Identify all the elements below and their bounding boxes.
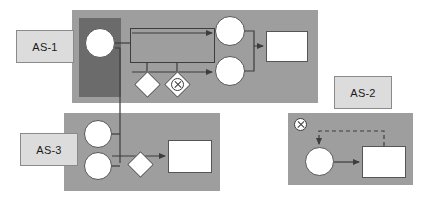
as1-task-lower-event[interactable]: [215, 56, 245, 86]
edge-as1-start-down-to-as3: [115, 48, 120, 163]
as3-event-upper[interactable]: [84, 120, 112, 148]
as3-label[interactable]: AS-3: [20, 133, 78, 166]
as1-subprocess-frame[interactable]: [130, 28, 215, 63]
as2-terminate-x-icon[interactable]: [294, 118, 307, 131]
as1-end-task[interactable]: [266, 31, 308, 62]
edge-lower-event-merge: [245, 46, 254, 71]
as2-event[interactable]: [305, 147, 334, 176]
as1-task-upper-event[interactable]: [215, 16, 245, 46]
as3-end-task[interactable]: [168, 140, 212, 173]
as2-label-text: AS-2: [350, 87, 375, 99]
as1-label-text: AS-1: [32, 41, 57, 53]
as3-event-lower[interactable]: [84, 152, 112, 180]
edge-events-merge-to-end-task: [245, 31, 263, 46]
diagram-canvas: AS-1 AS-3 AS-2: [0, 0, 429, 198]
as2-task[interactable]: [362, 146, 406, 178]
as1-label[interactable]: AS-1: [16, 30, 74, 63]
as1-start-event[interactable]: [85, 28, 115, 58]
as1-gateway-exclusive-x-icon: [171, 78, 184, 91]
edge-as2-task-feedback-loop: [319, 131, 384, 146]
as2-label[interactable]: AS-2: [334, 76, 392, 109]
as3-label-text: AS-3: [36, 144, 61, 156]
